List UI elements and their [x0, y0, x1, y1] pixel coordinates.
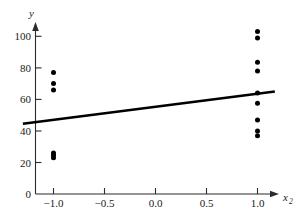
y-axis-arrow-icon	[32, 22, 39, 31]
data-point	[255, 29, 260, 34]
regression-line	[23, 92, 275, 124]
data-point	[51, 70, 56, 75]
data-point	[255, 101, 260, 106]
y-axis-label: y	[28, 7, 34, 19]
data-point	[255, 133, 260, 138]
x-tick-label-neg0-5: −0.5	[95, 197, 115, 209]
y-axis-tick-labels: 100 80 60 40 20 0	[15, 30, 32, 200]
data-point	[255, 117, 260, 122]
x-axis-arrow-icon	[270, 191, 279, 197]
x-tick-label-neg1: −1.0	[44, 197, 64, 209]
plot-canvas: 100 80 60 40 20 0 −1.0 −0.5 0.0 0.5 1.0 …	[0, 0, 296, 222]
x-axis-ticks	[54, 188, 258, 194]
data-point	[255, 35, 260, 40]
y-tick-label-100: 100	[15, 30, 32, 42]
y-tick-label-80: 80	[20, 62, 32, 74]
data-points-group	[51, 29, 260, 160]
data-point	[51, 87, 56, 92]
data-point	[255, 91, 260, 96]
y-tick-label-20: 20	[20, 157, 32, 169]
y-axis-ticks	[36, 36, 42, 162]
x-axis-label: x	[282, 191, 288, 203]
scatter-plot-figure: 100 80 60 40 20 0 −1.0 −0.5 0.0 0.5 1.0 …	[0, 0, 296, 222]
x-tick-label-1: 1.0	[251, 197, 265, 209]
y-axis	[32, 22, 39, 194]
data-point	[255, 60, 260, 65]
y-tick-label-0: 0	[26, 188, 32, 200]
y-tick-label-60: 60	[20, 93, 32, 105]
data-point	[255, 128, 260, 133]
data-point	[255, 68, 260, 73]
x-tick-label-0: 0.0	[149, 197, 163, 209]
y-tick-label-40: 40	[20, 125, 32, 137]
data-point	[51, 155, 56, 160]
data-point	[51, 81, 56, 86]
x-axis-tick-labels: −1.0 −0.5 0.0 0.5 1.0	[44, 197, 265, 209]
x-tick-label-0-5: 0.5	[200, 197, 214, 209]
x-axis-label-subscript: 2	[289, 197, 293, 206]
